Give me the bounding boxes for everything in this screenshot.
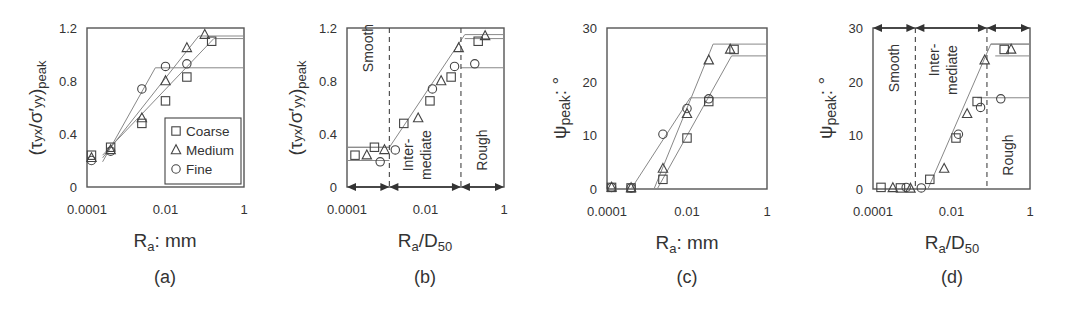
x-tick-label: 0.0001 [587,204,627,219]
square-marker [138,119,146,127]
y-tick-label: 0.8 [59,74,77,89]
arrow-head-icon [380,183,389,191]
arrow-head-icon [389,183,398,191]
y-tick-label: 0 [70,180,77,195]
y-tick-label: 30 [849,21,863,36]
y-axis-label: ψpeak: ° [549,77,573,139]
region-label-intermediate: Inter- [400,138,416,171]
square-marker [351,151,359,159]
arrow-head-icon [461,183,470,191]
panel-a: 00.40.81.20.00010.011Ra: mm(τyx/σ′yy)pea… [25,21,248,287]
legend-item-medium: Medium [186,143,234,158]
arrow-head-icon [978,24,987,32]
triangle-marker [161,76,170,85]
y-tick-label: 0 [856,182,863,197]
figure-canvas: 00.40.81.20.00010.011Ra: mm(τyx/σ′yy)pea… [0,0,1066,309]
region-label-rough: Rough [1000,134,1016,175]
triangle-marker [413,113,422,122]
y-tick-label: 0 [330,180,337,195]
square-marker [426,97,434,105]
y-tick-label: 30 [583,21,597,36]
arrow-head-icon [873,24,882,32]
fit-line [654,44,767,189]
y-tick-label: 0.4 [59,127,77,142]
x-tick-label: 0.01 [674,204,699,219]
panel-c: 01020300.00010.011Ra: mmψpeak: °(c) [549,21,771,287]
x-axis-label: Ra: mm [133,230,196,254]
square-marker [926,175,934,183]
square-marker [183,73,191,81]
legend-item-coarse: Coarse [186,124,230,139]
square-marker [447,73,455,81]
x-tick-label: 0.0001 [67,202,107,217]
arrow-head-icon [915,24,924,32]
x-tick-label: 0.0001 [327,202,367,217]
panel-label: (a) [154,267,176,287]
y-tick-label: 20 [583,75,597,90]
y-tick-label: 0.4 [319,127,337,142]
y-tick-label: 20 [849,75,863,90]
circle-marker [917,184,925,192]
region-label-intermediate: mediate [418,130,434,180]
panel-label: (d) [941,267,963,287]
y-tick-label: 10 [849,128,863,143]
y-axis-label: ψpeak: ° [815,77,839,139]
arrow-head-icon [1021,24,1030,32]
x-tick-label: 0.0001 [853,204,893,219]
x-tick-label: 0.01 [153,202,178,217]
y-axis-label: (τyx/σ′yy)peak [25,60,49,155]
circle-marker [659,130,667,138]
y-tick-label: 10 [583,128,597,143]
x-tick-label: 0.01 [413,202,438,217]
panel-d: 01020300.00010.011Ra/D50ψpeak: °(d)Smoot… [815,21,1034,287]
circle-marker [997,95,1005,103]
circle-marker [376,158,384,166]
y-tick-label: 0.8 [319,74,337,89]
region-label-rough: Rough [474,129,490,170]
region-label-intermediate: Inter- [926,43,942,76]
x-tick-label: 1 [500,202,507,217]
y-tick-label: 1.2 [319,21,337,36]
region-label-smooth: Smooth [886,44,902,92]
arrow-head-icon [906,24,915,32]
circle-marker [428,85,436,93]
arrow-head-icon [495,183,504,191]
region-label-smooth: Smooth [360,24,376,72]
circle-marker [471,60,479,68]
triangle-marker [380,145,389,154]
triangle-marker [939,163,948,172]
panel-b: 00.40.81.20.00010.011Ra/D50(τyx/σ′yy)pea… [285,21,508,287]
square-marker [161,97,169,105]
x-tick-label: 0.01 [939,204,964,219]
arrow-head-icon [987,24,996,32]
panel-label: (c) [677,267,698,287]
square-marker [877,183,885,191]
arrow-head-icon [452,183,461,191]
x-axis-label: Ra/D50 [398,230,452,254]
circle-marker [391,146,399,154]
triangle-marker [436,76,445,85]
legend-item-fine: Fine [186,162,212,177]
x-tick-label: 1 [763,204,770,219]
panel-label: (b) [414,267,436,287]
y-axis-label: (τyx/σ′yy)peak [285,60,309,155]
x-tick-label: 1 [1026,204,1033,219]
figure: 00.40.81.20.00010.011Ra: mm(τyx/σ′yy)pea… [0,0,1066,309]
fit-line [631,98,767,189]
x-axis-label: Ra: mm [655,232,718,256]
y-tick-label: 0 [590,182,597,197]
circle-marker [87,156,95,164]
circle-marker [976,103,984,111]
triangle-marker [962,109,971,118]
circle-marker [161,62,169,70]
x-tick-label: 1 [240,202,247,217]
x-axis-label: Ra/D50 [925,232,979,256]
y-tick-label: 1.2 [59,21,77,36]
circle-marker [450,62,458,70]
region-label-intermediate: mediate [944,45,960,95]
arrow-head-icon [347,183,356,191]
